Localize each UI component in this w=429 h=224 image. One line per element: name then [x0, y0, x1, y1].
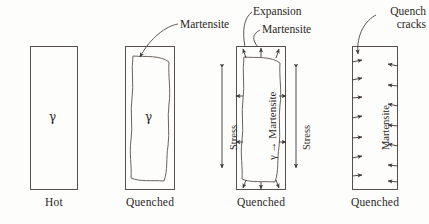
- expansion-arrow-bottom-1: [243, 180, 246, 188]
- expansion-arrow-top-3: [276, 49, 279, 58]
- quench-cracks-left: [352, 60, 362, 176]
- leader-martensite-panel3: [254, 30, 260, 47]
- martensite-shell-panel3: [241, 57, 280, 182]
- expansion-arrow-bottom-3: [276, 180, 279, 188]
- leader-martensite-panel2: [140, 24, 178, 57]
- martensite-shell-panel2: [130, 56, 169, 181]
- diagram-vector-overlay: [0, 0, 429, 224]
- leader-quench-cracks: [358, 15, 376, 54]
- diagram-canvas: γ Hot γ Quenched Martensite γ → Martensi…: [0, 0, 429, 224]
- quench-cracks-right: [388, 64, 398, 182]
- leader-expansion-panel3: [244, 12, 252, 47]
